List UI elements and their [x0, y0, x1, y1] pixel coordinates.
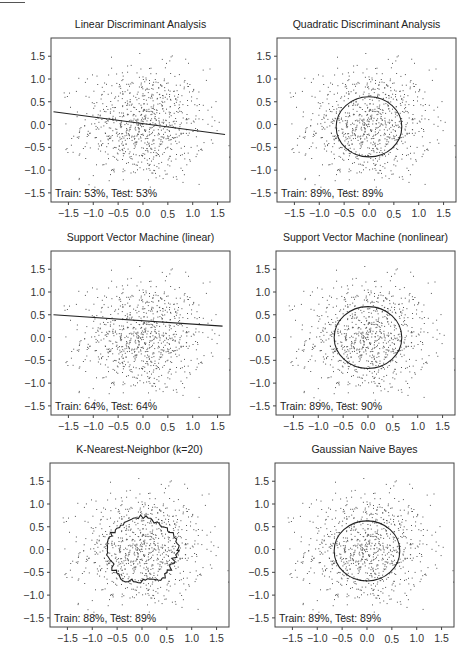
y-tick-label: 0.5 [29, 521, 44, 533]
scatter-points [64, 266, 230, 410]
y-tick-label: 1.5 [256, 50, 271, 62]
x-tick-label: −1.5 [284, 207, 305, 219]
y-tick-label: −0.5 [24, 141, 45, 153]
chart-title: Support Vector Machine (linear) [67, 231, 215, 243]
y-tick-label: −1.0 [248, 589, 269, 601]
chart-title: Linear Discriminant Analysis [75, 18, 206, 30]
y-tick-label: −1.0 [249, 377, 270, 389]
x-tick-label: −1.0 [83, 420, 104, 432]
x-tick-label: 0.0 [136, 207, 151, 219]
panel-gaussian-nb: Gaussian Naive Bayes−1.5−1.0−0.50.00.51.… [224, 439, 464, 654]
x-tick-label: −1.5 [282, 632, 303, 644]
y-tick-label: 1.0 [256, 73, 271, 85]
x-tick-label: 0.5 [161, 421, 176, 433]
chart-title: K-Nearest-Neighbor (k=20) [76, 443, 202, 455]
panel-svm-nonlinear: Support Vector Machine (nonlinear)−1.5−1… [225, 227, 465, 442]
x-tick-label: 0.5 [387, 208, 402, 220]
x-tick-label: 1.5 [210, 420, 225, 432]
x-tick-label: 1.5 [210, 207, 225, 219]
panel-knn: K-Nearest-Neighbor (k=20)−1.5−1.0−0.50.0… [0, 439, 239, 654]
scatter-points [288, 478, 454, 622]
y-tick-label: 1.5 [29, 475, 44, 487]
decision-boundary [334, 521, 400, 581]
y-tick-label: −1.5 [249, 400, 270, 412]
decision-boundary [53, 315, 222, 326]
y-tick-label: −1.5 [24, 400, 45, 412]
y-tick-label: −1.5 [250, 187, 271, 199]
y-tick-label: 1.5 [30, 263, 45, 275]
y-tick-label: 0.0 [30, 332, 45, 344]
x-tick-label: 0.5 [386, 421, 401, 433]
x-tick-label: −1.5 [58, 420, 79, 432]
x-tick-label: −0.5 [108, 207, 129, 219]
x-tick-label: 0.0 [361, 420, 376, 432]
x-tick-label: −1.0 [307, 632, 328, 644]
x-tick-label: 1.5 [436, 207, 451, 219]
y-tick-label: 1.5 [30, 50, 45, 62]
x-tick-label: 1.5 [435, 420, 450, 432]
scatter-points [63, 478, 229, 622]
panel-lda: Linear Discriminant Analysis−1.5−1.0−0.5… [0, 14, 240, 229]
accuracy-annotation: Train: 53%, Test: 53% [55, 187, 157, 199]
scatter-points [64, 53, 230, 197]
y-tick-label: −1.0 [23, 589, 44, 601]
scatter-points [290, 53, 456, 197]
chart-title: Support Vector Machine (nonlinear) [283, 231, 448, 243]
corner-rule [0, 2, 25, 3]
x-tick-label: −1.0 [83, 207, 104, 219]
x-tick-label: 0.5 [161, 208, 176, 220]
y-tick-label: 1.0 [30, 73, 45, 85]
accuracy-annotation: Train: 88%, Test: 89% [54, 612, 156, 624]
y-tick-label: 1.5 [255, 263, 270, 275]
x-tick-label: −1.0 [308, 420, 329, 432]
chart-title: Gaussian Naive Bayes [311, 443, 417, 455]
y-tick-label: 0.5 [255, 309, 270, 321]
x-tick-label: 0.0 [135, 632, 150, 644]
y-tick-label: −1.0 [24, 164, 45, 176]
x-tick-label: 0.0 [362, 207, 377, 219]
y-tick-label: 1.0 [30, 286, 45, 298]
panel-svm-linear: Support Vector Machine (linear)−1.5−1.0−… [0, 227, 240, 442]
y-tick-label: 1.5 [254, 475, 269, 487]
y-tick-label: −0.5 [248, 566, 269, 578]
y-tick-label: 0.0 [254, 544, 269, 556]
accuracy-annotation: Train: 89%, Test: 89% [281, 187, 383, 199]
x-tick-label: 0.0 [360, 632, 375, 644]
x-tick-label: 1.0 [410, 420, 425, 432]
y-tick-label: −1.5 [24, 187, 45, 199]
y-tick-label: 0.0 [30, 119, 45, 131]
x-tick-label: −1.0 [309, 207, 330, 219]
y-tick-label: 0.5 [30, 96, 45, 108]
x-tick-label: −1.5 [283, 420, 304, 432]
accuracy-annotation: Train: 89%, Test: 89% [279, 612, 381, 624]
y-tick-label: 0.0 [29, 544, 44, 556]
x-tick-label: 0.0 [136, 420, 151, 432]
x-tick-label: −1.5 [57, 632, 78, 644]
accuracy-annotation: Train: 64%, Test: 64% [55, 400, 157, 412]
x-tick-label: −0.5 [332, 632, 353, 644]
y-tick-label: 1.0 [254, 498, 269, 510]
y-tick-label: 0.5 [254, 521, 269, 533]
x-tick-label: −0.5 [108, 420, 129, 432]
x-tick-label: −1.5 [58, 207, 79, 219]
x-tick-label: 1.0 [409, 632, 424, 644]
x-tick-label: −0.5 [333, 420, 354, 432]
x-tick-label: 0.5 [160, 633, 175, 645]
y-tick-label: 0.0 [256, 119, 271, 131]
y-tick-label: −1.0 [250, 164, 271, 176]
y-tick-label: −1.0 [24, 377, 45, 389]
x-tick-label: 1.0 [411, 207, 426, 219]
chart-title: Quadratic Discriminant Analysis [293, 18, 441, 30]
y-tick-label: −1.5 [248, 612, 269, 624]
x-tick-label: 1.5 [209, 632, 224, 644]
y-tick-label: −0.5 [23, 566, 44, 578]
y-tick-label: 0.5 [256, 96, 271, 108]
x-tick-label: 1.0 [185, 207, 200, 219]
y-tick-label: −0.5 [250, 141, 271, 153]
scatter-points [289, 266, 455, 410]
y-tick-label: 1.0 [255, 286, 270, 298]
x-tick-label: 0.5 [385, 633, 400, 645]
x-tick-label: 1.5 [434, 632, 449, 644]
y-tick-label: −0.5 [24, 354, 45, 366]
y-tick-label: −0.5 [249, 354, 270, 366]
